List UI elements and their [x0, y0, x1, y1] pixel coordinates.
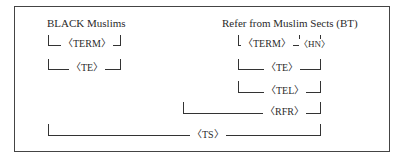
bracket-rfr-right — [320, 102, 321, 114]
bracket-ts-line — [48, 135, 321, 136]
bracket-tel-right — [320, 81, 321, 93]
bracket-ts-right — [320, 124, 321, 136]
left-term: BLACK Muslims — [47, 17, 126, 29]
label-tel: 〈TEL〉 — [264, 86, 306, 96]
right-term: Refer from Muslim Sects (BT) — [222, 17, 358, 29]
bracket-rte-right — [320, 59, 321, 70]
relation-diagram: BLACK Muslims Refer from Muslim Sects (B… — [0, 0, 401, 158]
label-rfr: 〈RFR〉 — [263, 107, 306, 117]
label-rte: 〈TE〉 — [264, 63, 300, 73]
label-hn: 〈HN〉 — [299, 39, 330, 49]
bracket-term-right — [120, 35, 121, 46]
bracket-te-right — [120, 59, 121, 70]
label-ts: 〈TS〉 — [190, 130, 226, 140]
label-term: 〈TERM〉 — [61, 39, 113, 49]
label-te: 〈TE〉 — [69, 63, 105, 73]
label-rterm: 〈TERM〉 — [241, 39, 293, 49]
